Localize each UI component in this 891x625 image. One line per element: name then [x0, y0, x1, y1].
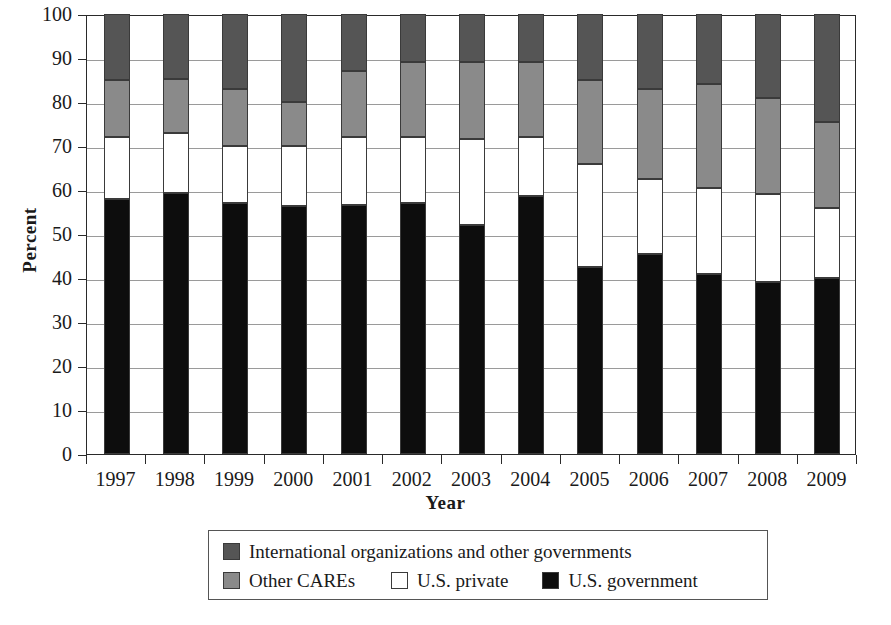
- x-tick-mark: [856, 455, 857, 464]
- bar-stack[interactable]: [163, 14, 189, 454]
- legend-entry-us-government: U.S. government: [542, 571, 697, 590]
- bar-stack[interactable]: [577, 14, 603, 454]
- bar-segment[interactable]: [637, 14, 663, 89]
- bar-stack[interactable]: [341, 14, 367, 454]
- bar-segment[interactable]: [518, 196, 544, 454]
- bar-segment[interactable]: [518, 137, 544, 196]
- bar-segment[interactable]: [222, 203, 248, 454]
- bar-segment[interactable]: [163, 193, 189, 454]
- bar-segment[interactable]: [400, 62, 426, 137]
- bar-segment[interactable]: [459, 225, 485, 454]
- y-tick-label: 80: [26, 92, 72, 112]
- y-tick-label: 0: [26, 444, 72, 464]
- bar-segment[interactable]: [696, 84, 722, 187]
- bar-segment[interactable]: [104, 14, 130, 80]
- bar-segment[interactable]: [222, 146, 248, 203]
- bar-segment[interactable]: [755, 14, 781, 98]
- bar-segment[interactable]: [518, 14, 544, 62]
- bar-stack[interactable]: [755, 14, 781, 454]
- x-tick-mark: [323, 455, 324, 464]
- bar-segment[interactable]: [814, 278, 840, 454]
- bar-segment[interactable]: [341, 14, 367, 71]
- legend: International organizations and other go…: [208, 530, 768, 600]
- x-tick-mark: [560, 455, 561, 464]
- bar-segment[interactable]: [577, 164, 603, 267]
- y-tick-label: 70: [26, 136, 72, 156]
- bar-segment[interactable]: [400, 203, 426, 454]
- bar-segment[interactable]: [341, 137, 367, 205]
- bar-segment[interactable]: [755, 282, 781, 454]
- y-tick-label: 60: [26, 180, 72, 200]
- legend-label: U.S. government: [568, 571, 697, 590]
- bar-segment[interactable]: [755, 98, 781, 195]
- bar-stack[interactable]: [518, 14, 544, 454]
- x-tick-mark: [501, 455, 502, 464]
- bar-segment[interactable]: [577, 80, 603, 164]
- legend-label: U.S. private: [417, 571, 508, 590]
- bar-stack[interactable]: [400, 14, 426, 454]
- bar-segment[interactable]: [518, 62, 544, 137]
- x-tick-mark: [264, 455, 265, 464]
- x-tick-label: 2007: [678, 469, 737, 489]
- x-tick-mark: [678, 455, 679, 464]
- x-tick-label: 2008: [738, 469, 797, 489]
- bar-stack[interactable]: [814, 14, 840, 454]
- bar-segment[interactable]: [696, 188, 722, 274]
- bar-segment[interactable]: [637, 254, 663, 454]
- dark-gray-swatch-icon: [223, 543, 240, 560]
- bar-segment[interactable]: [637, 179, 663, 254]
- x-tick-label: 2002: [382, 469, 441, 489]
- x-axis-title: Year: [0, 492, 891, 514]
- bar-segment[interactable]: [459, 139, 485, 225]
- bar-segment[interactable]: [222, 14, 248, 89]
- bar-segment[interactable]: [814, 122, 840, 208]
- x-tick-mark: [797, 455, 798, 464]
- bar-segment[interactable]: [459, 62, 485, 139]
- bar-segment[interactable]: [637, 89, 663, 179]
- bar-stack[interactable]: [104, 14, 130, 454]
- plot-area: [86, 15, 856, 455]
- y-tick-label: 30: [26, 312, 72, 332]
- bar-segment[interactable]: [104, 199, 130, 454]
- legend-row-2: Other CAREs U.S. private U.S. government: [223, 566, 753, 595]
- bar-segment[interactable]: [400, 14, 426, 62]
- x-tick-label: 1998: [145, 469, 204, 489]
- bar-segment[interactable]: [459, 14, 485, 62]
- bar-segment[interactable]: [163, 133, 189, 193]
- x-tick-label: 2006: [619, 469, 678, 489]
- medium-gray-swatch-icon: [223, 572, 240, 589]
- bar-segment[interactable]: [696, 14, 722, 84]
- bar-segment[interactable]: [281, 14, 307, 102]
- bar-segment[interactable]: [281, 102, 307, 146]
- bar-segment[interactable]: [814, 14, 840, 122]
- bar-stack[interactable]: [696, 14, 722, 454]
- bar-stack[interactable]: [637, 14, 663, 454]
- bar-segment[interactable]: [281, 146, 307, 206]
- bar-segment[interactable]: [577, 267, 603, 454]
- bar-segment[interactable]: [755, 194, 781, 282]
- legend-entry-other-cares: Other CAREs: [223, 571, 355, 590]
- bar-segment[interactable]: [104, 80, 130, 137]
- y-tick-label: 50: [26, 224, 72, 244]
- bar-stack[interactable]: [281, 14, 307, 454]
- bar-segment[interactable]: [163, 79, 189, 133]
- bar-segment[interactable]: [400, 137, 426, 203]
- bar-stack[interactable]: [222, 14, 248, 454]
- bar-segment[interactable]: [341, 205, 367, 454]
- x-tick-mark: [441, 455, 442, 464]
- bar-segment[interactable]: [814, 208, 840, 278]
- bar-segment[interactable]: [163, 14, 189, 79]
- chart-figure: Percent 0102030405060708090100 199719981…: [0, 0, 891, 625]
- x-tick-mark: [738, 455, 739, 464]
- bar-segment[interactable]: [696, 274, 722, 454]
- bar-segment[interactable]: [222, 89, 248, 146]
- bar-segment[interactable]: [341, 71, 367, 137]
- y-tick-label: 40: [26, 268, 72, 288]
- bar-stack[interactable]: [459, 14, 485, 454]
- bar-segment[interactable]: [577, 14, 603, 80]
- bar-segment[interactable]: [281, 206, 307, 454]
- legend-label: International organizations and other go…: [249, 542, 632, 561]
- bar-segment[interactable]: [104, 137, 130, 199]
- white-swatch-icon: [391, 572, 408, 589]
- x-tick-mark: [619, 455, 620, 464]
